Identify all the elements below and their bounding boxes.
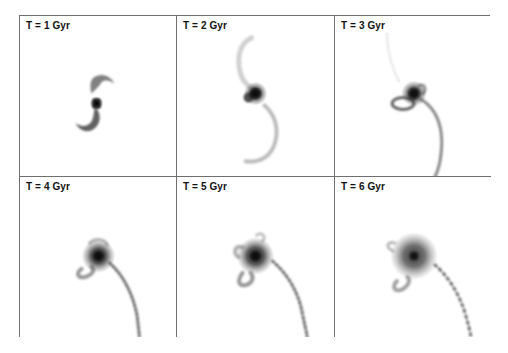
panel-t5: T = 5 Gyr	[177, 177, 335, 337]
panel-t1: T = 1 Gyr	[20, 16, 177, 177]
galaxy-density-map	[335, 177, 491, 337]
simulation-panel-grid: T = 1 Gyr T = 2 Gyr	[19, 15, 490, 337]
panel-t3: T = 3 Gyr	[335, 16, 491, 177]
panel-t2: T = 2 Gyr	[177, 16, 335, 177]
galaxy-density-map	[177, 16, 334, 176]
galaxy-density-map	[335, 16, 491, 176]
galaxy-density-map	[177, 177, 334, 337]
galaxy-density-map	[20, 16, 176, 176]
panel-t6: T = 6 Gyr	[335, 177, 491, 337]
galaxy-density-map	[20, 177, 176, 337]
panel-t4: T = 4 Gyr	[20, 177, 177, 337]
